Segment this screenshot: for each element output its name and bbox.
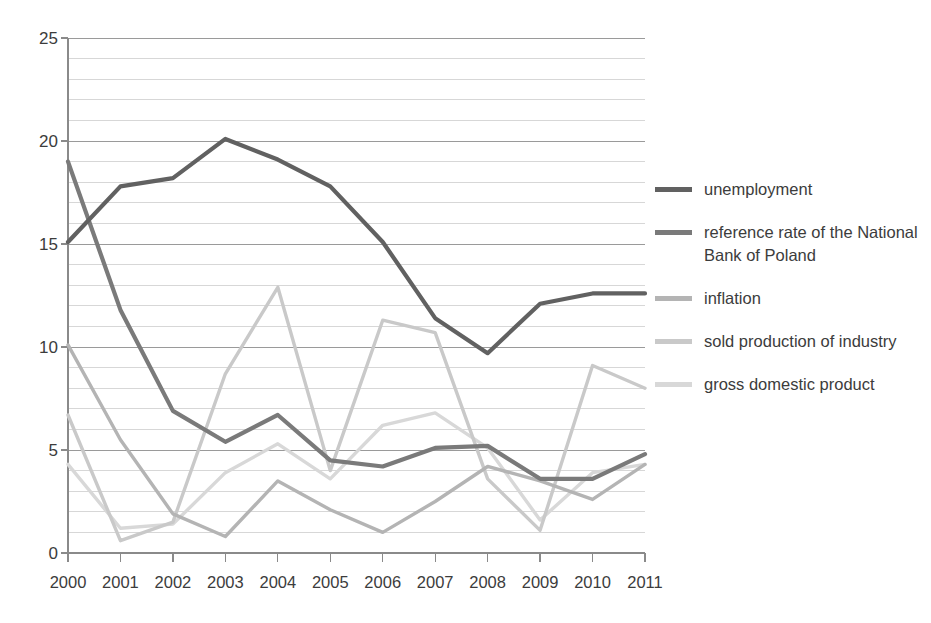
x-tick-label: 2008: [469, 574, 506, 591]
x-tick-label: 2005: [312, 574, 349, 591]
line-chart: 2520151050 20002001200220032004200520062…: [0, 0, 931, 623]
legend-item[interactable]: inflation: [655, 287, 931, 309]
x-tick-label: 2004: [259, 574, 296, 591]
legend-item[interactable]: sold production of industry: [655, 330, 931, 352]
x-tick-label: 2009: [522, 574, 559, 591]
x-axis: 2000200120022003200420052006200720082009…: [0, 0, 660, 623]
legend-swatch-icon: [655, 296, 692, 301]
legend-item-label: sold production of industry: [704, 330, 897, 352]
legend-item[interactable]: gross domestic product: [655, 373, 931, 395]
legend-item-label: unemployment: [704, 178, 812, 200]
legend-item-label: inflation: [704, 287, 761, 309]
legend-item-label: reference rate of the National Bank of P…: [704, 221, 919, 266]
x-tick-label: 2003: [207, 574, 244, 591]
legend-swatch-icon: [655, 187, 692, 192]
x-tick-label: 2000: [50, 574, 87, 591]
legend-swatch-icon: [655, 339, 692, 344]
legend-item[interactable]: unemployment: [655, 178, 931, 200]
chart-legend: unemploymentreference rate of the Nation…: [655, 178, 931, 417]
x-tick-label: 2007: [417, 574, 454, 591]
x-tick-label: 2002: [155, 574, 192, 591]
x-tick-label: 2010: [574, 574, 611, 591]
x-tick-label: 2001: [102, 574, 139, 591]
x-tick-label: 2011: [627, 574, 662, 591]
x-tick-label: 2006: [364, 574, 401, 591]
legend-item[interactable]: reference rate of the National Bank of P…: [655, 221, 931, 266]
legend-swatch-icon: [655, 382, 692, 387]
legend-item-label: gross domestic product: [704, 373, 875, 395]
legend-swatch-icon: [655, 230, 692, 235]
